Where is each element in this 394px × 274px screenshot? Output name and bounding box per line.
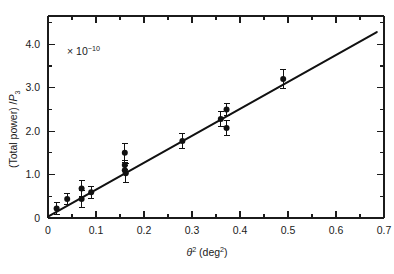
data-point-marker bbox=[224, 106, 230, 112]
annotation-exponent: −10 bbox=[88, 44, 100, 53]
data-point-marker bbox=[122, 150, 128, 156]
y-tick-label: 1.0 bbox=[25, 168, 40, 180]
x-tick-label: 0.1 bbox=[89, 224, 104, 236]
data-point-marker bbox=[218, 116, 224, 122]
x-axis-label-units: (deg bbox=[199, 246, 220, 258]
y-axis-label-main: (Total power) / bbox=[7, 101, 19, 168]
x-tick-label: 0.5 bbox=[281, 224, 296, 236]
y-tick-label: 2.0 bbox=[25, 125, 40, 137]
figure-container: 00.10.20.30.40.50.60.7 01.02.03.04.0 × 1… bbox=[0, 0, 394, 274]
x-tick-label: 0.6 bbox=[329, 224, 344, 236]
y-tick-label: 0 bbox=[34, 212, 40, 224]
y-tick-label: 3.0 bbox=[25, 81, 40, 93]
data-point-marker bbox=[64, 196, 70, 202]
y-axis-label-symbol: P bbox=[7, 94, 19, 101]
y-axis-label-subscript: 3 bbox=[13, 90, 22, 94]
data-point-marker bbox=[88, 189, 94, 195]
x-tick-label: 0.2 bbox=[137, 224, 152, 236]
data-point-marker bbox=[79, 196, 85, 202]
annotation-multiplier: × 10 bbox=[67, 45, 88, 57]
y-tick-label: 4.0 bbox=[25, 38, 40, 50]
data-point-marker bbox=[123, 170, 129, 176]
x-tick-label: 0.7 bbox=[377, 224, 392, 236]
x-tick-label: 0 bbox=[45, 224, 51, 236]
x-tick-label: 0.4 bbox=[233, 224, 248, 236]
data-point-marker bbox=[224, 125, 230, 131]
data-point-marker bbox=[54, 205, 60, 211]
x-axis-label-units-close: ) bbox=[224, 246, 228, 258]
x-tick-label: 0.3 bbox=[185, 224, 200, 236]
data-point-marker bbox=[280, 76, 286, 82]
scatter-plot: 00.10.20.30.40.50.60.7 01.02.03.04.0 × 1… bbox=[0, 0, 394, 274]
data-point-marker bbox=[179, 138, 185, 144]
